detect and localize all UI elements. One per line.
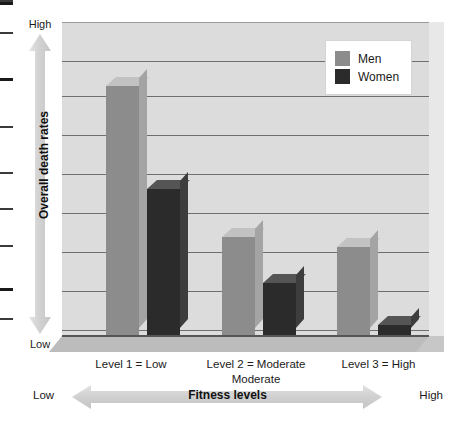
legend-item-men: Men [335,51,399,66]
bar-face [263,283,296,336]
bar-side-face [139,69,147,328]
y-axis-title: Overall death rates [37,85,51,245]
legend-swatch-men [335,51,350,66]
page-edge-tick [0,126,13,128]
page-edge-tick [0,245,13,247]
legend-label-men: Men [358,52,381,66]
bar-side-face [180,172,188,328]
bar-women-level-1 [147,189,180,336]
legend-item-women: Women [335,69,399,84]
bar-side-face [370,230,378,328]
x-axis: Low Fitness levels High [0,382,455,412]
plot-floor-front [49,336,429,352]
page-edge-tick [0,318,13,320]
bar-face [147,189,180,336]
page-edge-tick [0,32,13,34]
category-label-level-2: Level 2 = Moderate [186,358,326,370]
bar-face [222,237,255,336]
y-axis-high-label: High [18,18,62,30]
bar-men-level-2 [222,237,255,336]
bar-men-level-3 [337,247,370,336]
page-edge-tick [0,78,13,81]
x-axis-high-label: High [419,389,443,401]
page-edge-tick [0,288,13,291]
plot-floor-edge [62,335,429,337]
category-label-level-1: Level 1 = Low [66,358,196,370]
bar-face [106,86,139,336]
legend-label-women: Women [358,70,399,84]
bar-side-face [255,220,263,328]
page-edge-tick [0,208,13,210]
plot-side-wall [429,22,444,336]
chart-figure: High Low Overall death rates [0,0,455,432]
page-edge-tick [0,0,13,2]
bar-men-level-1 [106,86,139,336]
x-axis-title: Fitness levels [0,388,455,402]
bar-women-level-2 [263,283,296,336]
category-label-level-3: Level 3 = High [316,358,441,370]
legend-swatch-women [335,69,350,84]
plot-area: Men Women [62,22,444,352]
page-edge-tick [0,172,13,174]
bar-face [337,247,370,336]
y-axis: High Low Overall death rates [18,18,62,350]
legend: Men Women [325,40,412,95]
page-edge-tick [0,2,13,5]
bar-side-face [296,266,304,328]
